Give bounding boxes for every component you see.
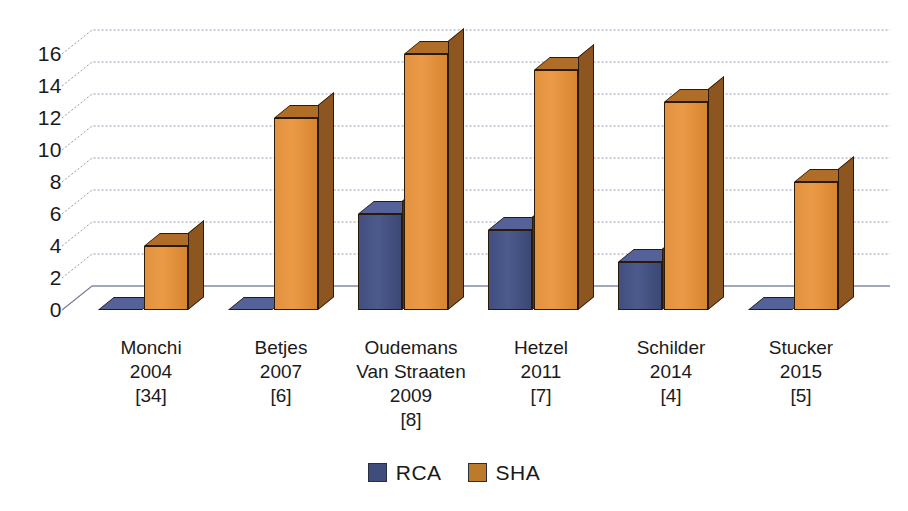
legend-swatch-icon xyxy=(368,463,387,482)
x-axis: Monchi2004[34]Betjes2007[6]OudemansVan S… xyxy=(62,336,890,456)
bar-side-face xyxy=(318,92,334,310)
legend-item-sha[interactable]: SHA xyxy=(468,462,541,483)
x-axis-label-line: [8] xyxy=(331,408,491,432)
bar-front-face xyxy=(274,118,318,310)
bar-sha-3 xyxy=(534,0,594,310)
y-axis-tick-10: 10 xyxy=(0,139,62,160)
bar-front-face xyxy=(664,102,708,310)
x-axis-label-line: 2015 xyxy=(721,360,881,384)
legend-item-rca[interactable]: RCA xyxy=(368,462,442,483)
bar-front-face xyxy=(488,230,532,310)
x-axis-label-line: [5] xyxy=(721,384,881,408)
bar-side-face xyxy=(448,28,464,310)
bar-sha-5 xyxy=(794,0,854,310)
legend-label: SHA xyxy=(496,462,541,483)
y-axis-tick-2: 2 xyxy=(0,267,62,288)
bar-sha-2 xyxy=(404,0,464,310)
bar-front-face xyxy=(144,246,188,310)
legend-label: RCA xyxy=(396,462,442,483)
plot-area xyxy=(62,14,890,324)
bar-front-face xyxy=(404,54,448,310)
bars-layer xyxy=(62,14,890,324)
y-axis: 1614121086420 xyxy=(0,0,62,340)
x-axis-label-line: Stucker xyxy=(721,336,881,360)
bar-side-face xyxy=(188,220,204,310)
bar-sha-4 xyxy=(664,0,724,310)
bar-front-face xyxy=(794,182,838,310)
y-axis-tick-14: 14 xyxy=(0,75,62,96)
x-axis-label-5: Stucker2015[5] xyxy=(721,336,881,408)
bar-front-face xyxy=(618,262,662,310)
bar-sha-0 xyxy=(144,0,204,310)
bar-sha-1 xyxy=(274,0,334,310)
y-axis-tick-16: 16 xyxy=(0,43,62,64)
bar-chart: 1614121086420 Monchi2004[34]Betjes2007[6… xyxy=(0,0,908,511)
legend-swatch-icon xyxy=(468,463,487,482)
bar-side-face xyxy=(838,156,854,310)
y-axis-tick-8: 8 xyxy=(0,171,62,192)
y-axis-tick-0: 0 xyxy=(0,299,62,320)
bar-side-face xyxy=(578,44,594,310)
y-axis-tick-12: 12 xyxy=(0,107,62,128)
y-axis-tick-4: 4 xyxy=(0,235,62,256)
bar-front-face xyxy=(534,70,578,310)
bar-side-face xyxy=(708,76,724,310)
chart-legend: RCASHA xyxy=(0,462,908,483)
y-axis-tick-6: 6 xyxy=(0,203,62,224)
bar-front-face xyxy=(358,214,402,310)
